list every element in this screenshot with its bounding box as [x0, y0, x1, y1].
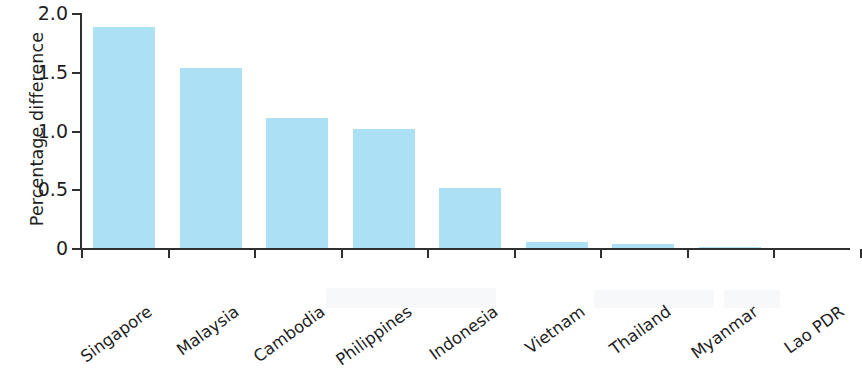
bar	[612, 244, 674, 248]
bar	[353, 129, 415, 248]
x-axis-tick	[860, 249, 862, 258]
y-axis-tick-label: 0.5	[12, 178, 68, 200]
x-axis-line	[80, 248, 850, 250]
y-axis-tick	[72, 13, 81, 15]
y-axis-tick	[72, 189, 81, 191]
scan-artifact	[594, 290, 714, 308]
x-axis-tick	[341, 249, 343, 258]
bar	[266, 118, 328, 248]
y-axis-tick-label: 0	[12, 237, 68, 259]
x-axis-tick	[773, 249, 775, 258]
x-axis-tick	[514, 249, 516, 258]
y-axis-tick	[72, 72, 81, 74]
x-axis-tick	[254, 249, 256, 258]
x-axis-tick	[600, 249, 602, 258]
x-axis-label: Singapore	[0, 302, 156, 370]
x-axis-tick	[427, 249, 429, 258]
bar	[93, 27, 155, 248]
y-axis-tick	[72, 131, 81, 133]
bar	[180, 68, 242, 248]
y-axis-tick	[72, 248, 81, 250]
bar	[526, 242, 588, 248]
y-axis-tick-label: 1.5	[12, 61, 68, 83]
bar	[439, 188, 501, 248]
bar	[699, 247, 761, 248]
scan-artifact	[326, 288, 496, 308]
x-axis-tick	[81, 249, 83, 258]
y-axis-tick-label: 1.0	[12, 120, 68, 142]
x-axis-tick	[168, 249, 170, 258]
x-axis-tick	[687, 249, 689, 258]
y-axis-tick-label: 2.0	[12, 2, 68, 24]
